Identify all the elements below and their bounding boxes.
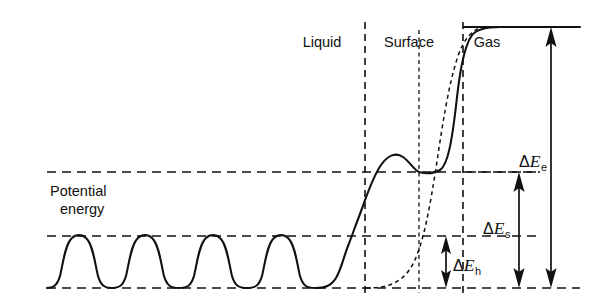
delta-e-s-label: ΔEs xyxy=(483,218,511,240)
delta-e-h-arrow xyxy=(441,236,451,288)
svg-text:ΔEh: ΔEh xyxy=(453,255,481,277)
diagram-canvas: Liquid Surface Gas Potential energy ΔEe … xyxy=(0,0,606,306)
delta-e-e-arrow xyxy=(546,27,557,288)
potential-energy-solid-curve xyxy=(47,27,580,288)
delta-e-e-subscript-glyph: e xyxy=(541,161,547,173)
smoothed-potential-dashed-curve xyxy=(366,27,482,288)
delta-e-e-label: ΔEe xyxy=(519,151,547,173)
delta-e-e-delta-glyph: Δ xyxy=(519,153,530,170)
potential-energy-label-line2: energy xyxy=(60,201,105,217)
level-lines-group xyxy=(47,27,580,288)
potential-energy-label-line1: Potential xyxy=(50,183,106,199)
region-label-surface: Surface xyxy=(384,34,434,50)
delta-e-s-delta-glyph: Δ xyxy=(483,220,494,237)
svg-text:ΔEe: ΔEe xyxy=(519,151,547,173)
delta-e-h-symbol-glyph: E xyxy=(463,255,475,275)
region-label-gas: Gas xyxy=(474,34,501,50)
region-label-liquid: Liquid xyxy=(303,34,342,50)
svg-text:ΔEs: ΔEs xyxy=(483,218,511,240)
delta-e-s-subscript-glyph: s xyxy=(505,228,511,240)
delta-e-h-label: ΔEh xyxy=(453,255,481,277)
delta-e-e-symbol-glyph: E xyxy=(529,151,541,171)
potential-energy-diagram: Liquid Surface Gas Potential energy ΔEe … xyxy=(0,0,606,306)
region-boundaries-group xyxy=(365,22,463,293)
delta-e-s-symbol-glyph: E xyxy=(493,218,505,238)
delta-e-h-delta-glyph: Δ xyxy=(453,257,464,274)
delta-e-h-subscript-glyph: h xyxy=(475,265,481,277)
